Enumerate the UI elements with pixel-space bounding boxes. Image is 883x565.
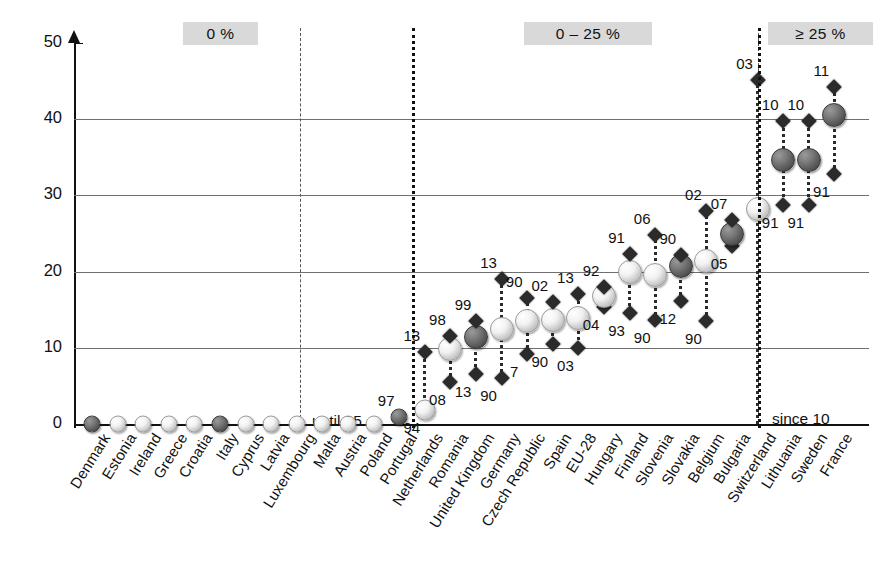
gridline — [74, 195, 869, 196]
data-point-diamond — [417, 344, 433, 360]
point-year-label-top: 98 — [429, 311, 446, 328]
point-year-label-bottom: 93 — [608, 321, 625, 338]
y-axis-tick-label: 30 — [18, 184, 62, 203]
data-point-sphere-light — [515, 309, 539, 333]
point-year-label-top: 11 — [814, 62, 830, 79]
y-axis-arrow-icon — [68, 30, 80, 43]
point-year-label-top: 13 — [480, 254, 497, 271]
data-point-sphere-light — [541, 308, 565, 332]
y-axis-tick-label: 50 — [18, 32, 62, 51]
data-point-diamond — [775, 113, 791, 129]
data-point-sphere-light — [490, 317, 514, 341]
gridline — [74, 272, 869, 273]
category-dotted-separator — [758, 28, 761, 428]
data-point-sphere-dark — [771, 148, 795, 172]
gridline — [74, 119, 869, 120]
point-year-label-top: 91 — [608, 229, 625, 246]
data-point-diamond — [699, 313, 715, 329]
band-label-zero: 0 % — [183, 22, 258, 45]
band-label-high: ≥ 25 % — [768, 22, 873, 45]
point-year-label-top: 10 — [787, 95, 804, 112]
point-year-label-bottom: 90 — [480, 387, 497, 404]
point-year-label-bottom: 91 — [762, 213, 779, 230]
band-label-mid: 0 – 25 % — [524, 22, 652, 45]
point-year-label-top: 07 — [711, 194, 728, 211]
point-year-label-bottom: 08 — [429, 391, 446, 408]
data-point-diamond — [622, 305, 638, 321]
data-point-sphere-light — [643, 263, 667, 287]
data-point-diamond — [545, 336, 561, 352]
point-year-label-top: 02 — [531, 277, 548, 294]
point-year-label-bottom: 91 — [813, 183, 830, 200]
point-year-label-top: 10 — [762, 95, 779, 112]
data-point-diamond — [775, 197, 791, 213]
point-year-label-bottom: 13 — [455, 383, 472, 400]
data-point-diamond — [827, 166, 843, 182]
range-connector — [833, 87, 836, 174]
point-year-label-bottom: 12 — [659, 309, 676, 326]
data-point-diamond — [494, 370, 510, 386]
point-year-label-top: 06 — [634, 210, 651, 227]
data-point-diamond — [673, 293, 689, 309]
y-axis-tick-label: 40 — [18, 108, 62, 127]
data-point-diamond — [545, 294, 561, 310]
point-year-label-top: 90 — [659, 229, 676, 246]
point-year-label-bottom: 04 — [583, 315, 600, 332]
point-year-label-bottom: 03 — [557, 356, 574, 373]
y-axis-tick-mark — [74, 43, 83, 44]
point-year-label-bottom: 90 — [685, 330, 702, 347]
data-point-sphere-dark — [822, 103, 846, 127]
point-year-label-bottom: 05 — [711, 255, 728, 272]
point-year-label-top: 97 — [378, 392, 395, 409]
data-point-diamond — [468, 367, 484, 383]
band-separator-left — [300, 28, 301, 428]
point-year-label-top: 03 — [736, 54, 753, 71]
data-point-sphere-dark — [797, 148, 821, 172]
y-axis-tick-label: 0 — [18, 413, 62, 432]
note-since: since 10 — [772, 410, 830, 428]
category-dotted-separator — [412, 28, 415, 428]
data-point-diamond — [571, 287, 587, 303]
data-point-diamond — [622, 246, 638, 262]
point-year-label-top: 02 — [685, 185, 702, 202]
y-axis-tick-label: 20 — [18, 261, 62, 280]
point-year-label-top: 13 — [557, 269, 574, 286]
point-year-label-bottom: 90 — [634, 328, 651, 345]
chart-container: 01020304050 0 % 0 – 25 % ≥ 25 % until 95… — [0, 0, 883, 565]
y-axis-line — [74, 36, 76, 428]
point-year-label-top: 92 — [583, 261, 600, 278]
data-point-diamond — [827, 79, 843, 95]
point-year-label-bottom: 90 — [531, 352, 548, 369]
point-year-label-top: 90 — [506, 273, 523, 290]
point-year-label-top: 99 — [455, 296, 472, 313]
data-point-diamond — [801, 113, 817, 129]
point-year-label-bottom: 7 — [510, 362, 518, 379]
y-axis-tick-label: 10 — [18, 337, 62, 356]
data-point-sphere-light — [618, 260, 642, 284]
point-year-label-bottom: 91 — [787, 213, 804, 230]
data-point-diamond — [571, 340, 587, 356]
